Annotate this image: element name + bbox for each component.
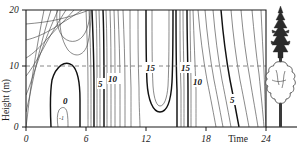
contour-label-5-right: 5	[230, 95, 235, 105]
contour-line	[106, 10, 107, 127]
contour-line	[138, 10, 140, 127]
y-axis-title: Height (m)	[1, 79, 12, 121]
y-axis: 0 10 20 Height (m)	[1, 5, 26, 132]
contour-line	[26, 10, 44, 127]
contour-line	[198, 10, 216, 127]
contour-line	[261, 10, 266, 127]
contour-label-10-left: 10	[108, 74, 118, 84]
contour-line	[130, 10, 131, 127]
contour-line	[26, 10, 58, 95]
y-tick-label-0: 0	[14, 122, 19, 132]
contour-line	[152, 10, 169, 106]
contour-line-bold	[176, 10, 177, 127]
contour-line-bold	[103, 10, 104, 127]
x-tick-label-12: 12	[141, 134, 151, 144]
x-tick-label-6: 6	[84, 134, 89, 144]
contour-line	[26, 10, 82, 40]
x-tick-label-0: 0	[24, 134, 29, 144]
contour-line-bold	[221, 10, 239, 127]
contour-line	[241, 10, 258, 127]
contour-label-10-right: 10	[193, 77, 203, 87]
tree-lower-canopy	[266, 62, 296, 104]
contour-line-bold	[92, 10, 94, 127]
contour-line	[26, 10, 89, 24]
contour-line	[123, 10, 125, 127]
figure-container: 0 5 10 15 15 10 5 -1 0 10	[0, 0, 305, 150]
x-axis: 0 6 12 18 24 Time	[24, 127, 271, 144]
contour-label-minus-1: -1	[59, 115, 64, 121]
contour-plot-figure: 0 5 10 15 15 10 5 -1 0 10	[0, 0, 305, 150]
contour-line	[110, 10, 111, 127]
contour-label-15-right: 15	[181, 63, 191, 73]
x-axis-title: Time	[228, 134, 248, 144]
contour-line	[99, 10, 100, 127]
contour-line	[231, 10, 249, 127]
y-tick-label-10: 10	[9, 61, 19, 71]
y-tick-label-20: 20	[9, 5, 19, 15]
contour-label-15-left: 15	[146, 63, 156, 73]
contour-label-5-left: 5	[98, 79, 103, 89]
x-tick-label-18: 18	[201, 134, 211, 144]
tree-illustration	[266, 6, 296, 127]
x-tick-label-24: 24	[261, 134, 271, 144]
contour-line	[252, 10, 264, 127]
contour-line	[96, 10, 97, 127]
contour-line	[114, 10, 115, 127]
contour-label-0: 0	[63, 96, 68, 106]
contour-line	[26, 10, 51, 112]
contour-line	[118, 10, 120, 127]
